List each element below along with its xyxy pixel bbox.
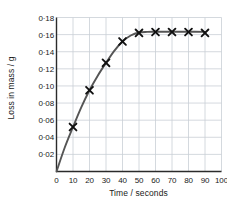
x-tick-label: 100 bbox=[215, 176, 227, 185]
x-tick-label: 40 bbox=[118, 176, 127, 185]
x-tick-label: 80 bbox=[184, 176, 193, 185]
x-tick-label: 70 bbox=[168, 176, 177, 185]
x-tick-label: 50 bbox=[135, 176, 144, 185]
x-tick-label: 20 bbox=[85, 176, 94, 185]
x-axis-label: Time / seconds bbox=[56, 188, 221, 198]
x-tick-label: 10 bbox=[69, 176, 78, 185]
x-tick-label: 0 bbox=[54, 176, 58, 185]
chart-figure: Loss in mass / g 0·020·040·060·080·100·1… bbox=[0, 0, 227, 205]
x-axis-tick-labels: 0102030405060708090100 bbox=[0, 0, 227, 205]
x-tick-label: 30 bbox=[102, 176, 111, 185]
x-tick-label: 90 bbox=[201, 176, 210, 185]
x-tick-label: 60 bbox=[151, 176, 160, 185]
